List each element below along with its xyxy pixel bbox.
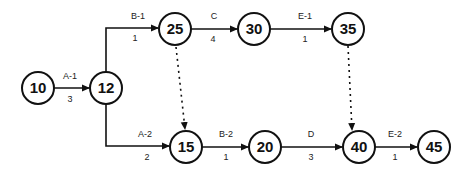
dummy-25-15 — [176, 47, 185, 129]
activity-e1-name: E-1 — [298, 11, 312, 21]
node-12: 12 — [90, 72, 122, 104]
activity-e2-duration: 1 — [392, 152, 397, 162]
activity-a1-name: A-1 — [63, 71, 77, 81]
activity-a2-duration: 2 — [144, 152, 149, 162]
activity-e2: E-2 1 — [375, 129, 417, 162]
activity-c-name: C — [211, 11, 218, 21]
node-40: 40 — [343, 131, 375, 163]
activity-c: C 4 — [191, 11, 237, 44]
activity-b1: B-1 1 — [106, 11, 158, 72]
activity-d-duration: 3 — [308, 152, 313, 162]
node-10-label: 10 — [30, 79, 47, 96]
node-20-label: 20 — [257, 138, 274, 155]
network-diagram: A-1 3 B-1 1 C 4 E-1 1 A-2 2 B-2 1 D 3 E-… — [0, 0, 469, 172]
node-45-label: 45 — [426, 138, 443, 155]
node-30: 30 — [238, 13, 270, 45]
node-10: 10 — [22, 72, 54, 104]
dummy-35-40 — [348, 46, 352, 130]
node-35-label: 35 — [340, 20, 357, 37]
activity-a1: A-1 3 — [54, 71, 89, 104]
node-12-label: 12 — [98, 79, 115, 96]
activity-b1-name: B-1 — [131, 11, 145, 21]
node-25-label: 25 — [167, 20, 184, 37]
activity-b2-name: B-2 — [219, 129, 233, 139]
activity-b2-duration: 1 — [223, 152, 228, 162]
activity-e1-duration: 1 — [302, 34, 307, 44]
node-25: 25 — [159, 13, 191, 45]
activity-b2: B-2 1 — [202, 129, 248, 162]
activity-b1-duration: 1 — [132, 33, 137, 43]
activity-d-name: D — [308, 129, 315, 139]
activity-c-duration: 4 — [210, 34, 215, 44]
activity-a2-name: A-2 — [138, 129, 152, 139]
node-45: 45 — [418, 131, 450, 163]
node-30-label: 30 — [246, 20, 263, 37]
activity-e1: E-1 1 — [270, 11, 331, 44]
node-40-label: 40 — [351, 138, 368, 155]
node-35: 35 — [332, 13, 364, 45]
node-15-label: 15 — [178, 138, 195, 155]
node-20: 20 — [249, 131, 281, 163]
activity-a2: A-2 2 — [106, 104, 169, 162]
activity-e2-name: E-2 — [388, 129, 402, 139]
activity-a1-duration: 3 — [67, 94, 72, 104]
activity-d: D 3 — [281, 129, 342, 162]
node-15: 15 — [170, 131, 202, 163]
